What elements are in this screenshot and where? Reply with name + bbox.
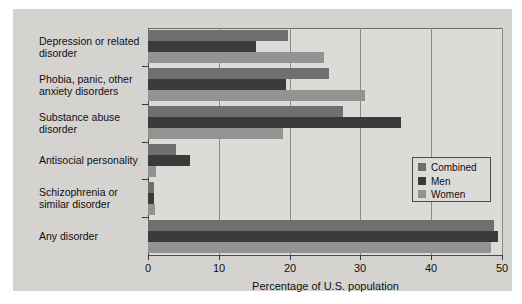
bar-women-4	[148, 204, 155, 215]
legend-swatch-women	[418, 190, 426, 198]
x-tick-40	[431, 255, 432, 260]
y-tick-4	[142, 179, 148, 180]
y-tick-3	[142, 142, 148, 143]
y-tick-1	[142, 66, 148, 67]
bar-men-3	[148, 155, 190, 166]
bar-combined-2	[148, 106, 343, 117]
category-label-1: Phobia, panic, otheranxiety disorders	[39, 73, 143, 97]
x-axis-line	[148, 255, 503, 256]
x-tick-10	[219, 255, 220, 260]
legend-item-combined: Combined	[418, 162, 477, 174]
bar-women-0	[148, 52, 324, 63]
bar-women-3	[148, 166, 156, 177]
legend-label-combined: Combined	[431, 162, 477, 173]
x-tick-label-50: 50	[482, 262, 522, 274]
x-tick-50	[502, 255, 503, 260]
x-tick-label-10: 10	[199, 262, 239, 274]
bar-women-5	[148, 242, 491, 253]
category-label-3: Antisocial personality	[39, 154, 143, 166]
category-label-2: Substance abusedisorder	[39, 111, 143, 135]
x-tick-20	[290, 255, 291, 260]
y-tick-5	[142, 217, 148, 218]
legend-label-men: Men	[431, 176, 450, 187]
x-axis-title: Percentage of U.S. population	[148, 280, 503, 292]
category-label-4: Schizophrenia orsimilar disorder	[39, 186, 143, 210]
x-tick-label-30: 30	[340, 262, 380, 274]
bar-men-1	[148, 79, 286, 90]
x-tick-0	[148, 255, 149, 260]
legend-item-men: Men	[418, 176, 450, 188]
x-tick-label-0: 0	[128, 262, 168, 274]
x-tick-30	[360, 255, 361, 260]
gridline-50	[502, 28, 503, 255]
plot-top-border	[148, 28, 503, 29]
figure: 01020304050 Depression or relateddisorde…	[0, 0, 522, 304]
bar-men-4	[148, 193, 154, 204]
chart-panel: 01020304050 Depression or relateddisorde…	[13, 9, 512, 291]
bar-combined-0	[148, 30, 288, 41]
legend-swatch-men	[418, 177, 426, 185]
bar-men-5	[148, 231, 498, 242]
x-tick-label-40: 40	[411, 262, 451, 274]
bar-men-0	[148, 41, 256, 52]
legend-swatch-combined	[418, 163, 426, 171]
category-label-5: Any disorder	[39, 230, 143, 242]
legend-item-women: Women	[418, 189, 465, 201]
x-tick-label-20: 20	[270, 262, 310, 274]
bar-combined-4	[148, 182, 154, 193]
bar-women-1	[148, 90, 365, 101]
bar-combined-1	[148, 68, 329, 79]
bar-women-2	[148, 128, 283, 139]
bar-men-2	[148, 117, 401, 128]
legend: Combined Men Women	[412, 157, 491, 202]
category-label-0: Depression or relateddisorder	[39, 35, 143, 59]
bar-combined-3	[148, 144, 176, 155]
y-tick-2	[142, 104, 148, 105]
legend-label-women: Women	[431, 189, 465, 200]
bar-combined-5	[148, 220, 494, 231]
